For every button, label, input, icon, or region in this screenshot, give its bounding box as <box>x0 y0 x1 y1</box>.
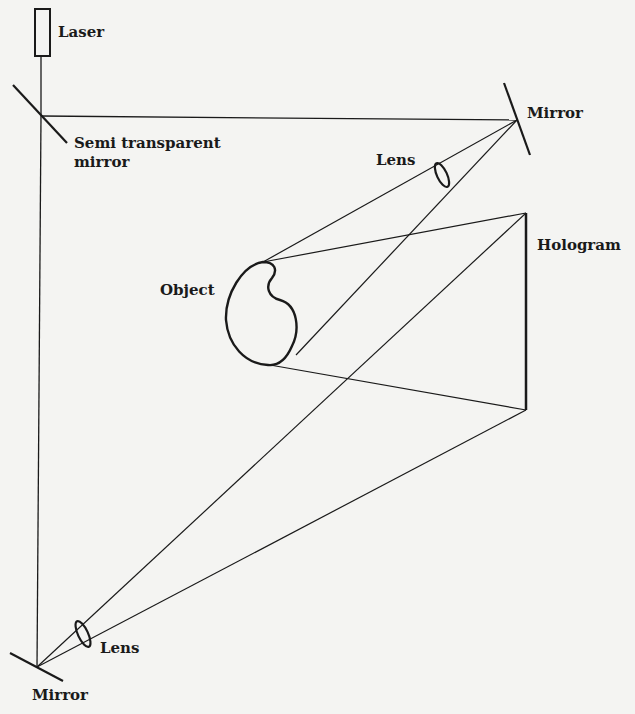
semi-mirror-label-line2: mirror <box>74 154 129 171</box>
lens-top-icon <box>432 161 452 189</box>
semi-transparent-mirror-icon <box>13 85 67 143</box>
lens-top-label: Lens <box>376 152 415 169</box>
object-label: Object <box>160 282 215 299</box>
semi-mirror-label-line1: Semi transparent <box>74 135 221 152</box>
laser-label: Laser <box>58 24 104 41</box>
lens-bottom-icon <box>73 619 94 649</box>
object-shape <box>226 262 297 365</box>
lens-bottom-label: Lens <box>100 640 139 657</box>
hologram-label: Hologram <box>537 237 621 254</box>
laser-icon <box>35 9 50 56</box>
mirror-top-label: Mirror <box>527 105 583 122</box>
mirror-bottom-label: Mirror <box>32 687 88 704</box>
hologram-setup-diagram: Laser Semi transparent mirror Mirror Len… <box>0 0 635 714</box>
